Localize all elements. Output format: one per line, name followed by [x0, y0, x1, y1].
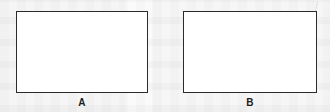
panel-b-rectangle [183, 11, 317, 93]
panel-a-rectangle [16, 11, 148, 93]
figure-two-empty-panels: A B [0, 0, 330, 112]
panel-b-label: B [240, 97, 260, 108]
panel-a-label: A [72, 97, 92, 108]
